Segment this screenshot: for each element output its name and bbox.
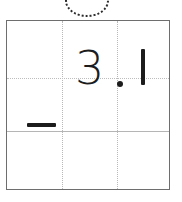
grid-column-divider-1 — [62, 21, 63, 189]
grid-column-divider-2 — [117, 21, 118, 189]
grid-row-divider-2 — [7, 131, 169, 132]
dotted-circle-icon — [65, 0, 109, 17]
digit-one — [141, 49, 145, 85]
decimal-point — [117, 81, 123, 87]
worksheet-canvas: 3 — [0, 0, 182, 202]
digit-three: 3 — [75, 45, 104, 91]
arithmetic-grid[interactable]: 3 — [6, 20, 170, 190]
minus-operator — [27, 123, 56, 127]
